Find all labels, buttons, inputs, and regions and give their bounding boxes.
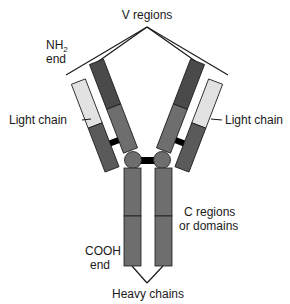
heavy-chains-label: Heavy chains: [112, 287, 184, 301]
right-hinge-circle: [154, 152, 171, 169]
cooh-end-label: COOH: [85, 244, 121, 258]
left-heavy-c2-domain: [124, 168, 141, 216]
c-regions-label-line2: or domains: [179, 219, 238, 233]
c-regions-label: C regions: [184, 205, 235, 219]
light-chain-label-left: Light chain: [9, 113, 67, 127]
v-regions-label: V regions: [122, 8, 173, 22]
right-light-chain-pointer: [211, 119, 222, 120]
cooh-end-label-line2: end: [90, 258, 110, 272]
fc-region: [124, 168, 172, 266]
left-heavy-c3-domain: [124, 216, 141, 266]
heavy-chains-callout-lines: [132, 266, 163, 283]
right-heavy-c3-domain: [155, 216, 172, 266]
light-chain-label-right: Light chain: [225, 113, 283, 127]
left-hinge-circle: [125, 152, 142, 169]
antibody-diagram: V regions NH2 end Light chain Light chai…: [0, 0, 290, 304]
right-heavy-c2-domain: [155, 168, 172, 216]
nh2-end-label-line2: end: [46, 52, 66, 66]
